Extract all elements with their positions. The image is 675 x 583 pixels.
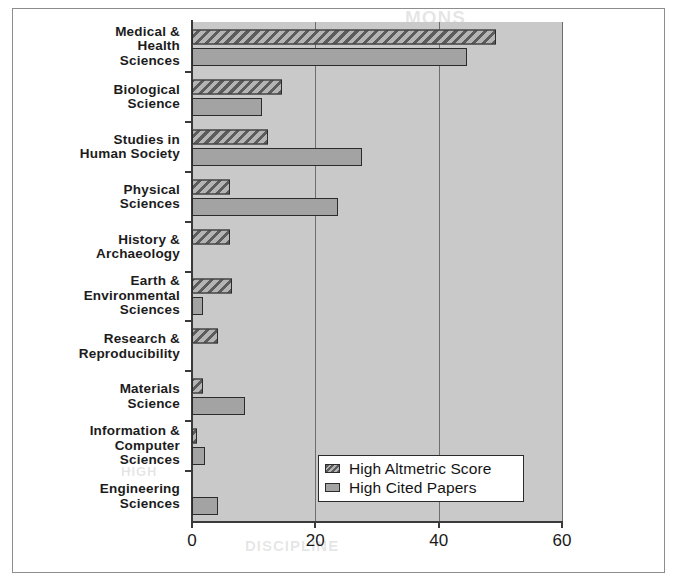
- x-tick-40: [438, 521, 440, 528]
- bar-cited: [192, 297, 203, 315]
- bar-cited: [192, 48, 467, 66]
- x-tick-label-0: 0: [187, 531, 196, 551]
- bar-altmetric: [192, 179, 230, 194]
- x-axis-line: [191, 521, 563, 523]
- category-label: Information & Computer Sciences: [90, 424, 180, 468]
- legend-swatch-altmetric-icon: [325, 464, 340, 473]
- x-tick-60: [561, 521, 563, 528]
- gridline-60: [562, 22, 563, 521]
- bar-cited: [192, 447, 205, 465]
- gridline-40: [439, 22, 440, 521]
- y-tick-7: [185, 370, 192, 372]
- legend-item-altmetric[interactable]: High Altmetric Score: [325, 459, 517, 478]
- category-label: Biological Science: [113, 82, 180, 111]
- y-tick-6: [185, 320, 192, 322]
- legend-swatch-cited-icon: [325, 483, 340, 492]
- y-tick-2: [185, 121, 192, 123]
- bar-cited: [192, 98, 262, 116]
- plot-area: [192, 22, 563, 521]
- x-tick-label-20: 20: [306, 531, 325, 551]
- chart-legend: High Altmetric Score High Cited Papers: [318, 455, 524, 502]
- bar-altmetric: [192, 79, 282, 94]
- bar-altmetric: [192, 279, 232, 294]
- category-label: History & Archaeology: [96, 232, 180, 261]
- y-tick-5: [185, 271, 192, 273]
- y-tick-3: [185, 171, 192, 173]
- legend-label-altmetric: High Altmetric Score: [349, 460, 491, 478]
- bar-cited: [192, 397, 245, 415]
- x-tick-20: [314, 521, 316, 528]
- category-label: Materials Science: [120, 382, 180, 411]
- bar-cited: [192, 497, 218, 515]
- bar-altmetric: [192, 379, 203, 394]
- x-tick-0: [191, 521, 193, 528]
- bar-altmetric: [192, 229, 230, 244]
- bar-altmetric: [192, 29, 496, 44]
- y-tick-1: [185, 71, 192, 73]
- y-tick-9: [185, 470, 192, 472]
- page-bleed-text-bottom: DISCIPLINE: [245, 537, 339, 554]
- legend-label-cited: High Cited Papers: [349, 479, 477, 497]
- bar-cited: [192, 198, 338, 216]
- category-label: Physical Sciences: [120, 182, 180, 211]
- bar-altmetric: [192, 129, 268, 144]
- category-label: Studies in Human Society: [80, 132, 180, 161]
- x-tick-label-60: 60: [553, 531, 572, 551]
- bar-cited: [192, 148, 362, 166]
- category-label: Earth & Environmental Sciences: [84, 275, 180, 319]
- bar-altmetric: [192, 429, 197, 444]
- category-label: Medical & Health Sciences: [115, 25, 180, 69]
- category-label: Research & Reproducibility: [79, 332, 180, 361]
- category-label: Engineering Sciences: [100, 482, 180, 511]
- y-tick-8: [185, 420, 192, 422]
- bar-altmetric: [192, 329, 218, 344]
- x-tick-label-40: 40: [429, 531, 448, 551]
- gridline-20: [315, 22, 316, 521]
- y-tick-4: [185, 221, 192, 223]
- legend-item-cited[interactable]: High Cited Papers: [325, 478, 517, 497]
